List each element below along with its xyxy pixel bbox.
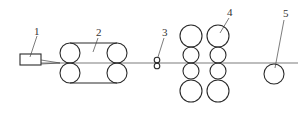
component-3-small-rollers: 3: [154, 26, 168, 69]
component-1-box: 1: [20, 25, 60, 65]
leader-line-2: [93, 38, 98, 52]
component-4-roller-stacks: 4: [180, 6, 233, 102]
leader-line-3: [158, 38, 164, 57]
component-2-belt-rollers: 2: [60, 26, 127, 83]
label-4: 4: [227, 6, 233, 18]
leader-line-5: [275, 20, 284, 68]
process-diagram: 1 2 3 4 5: [0, 0, 303, 115]
label-3: 3: [162, 26, 168, 38]
component-5-roller: 5: [264, 7, 289, 84]
label-1: 1: [34, 25, 40, 37]
label-5: 5: [283, 7, 289, 19]
label-2: 2: [96, 26, 102, 38]
